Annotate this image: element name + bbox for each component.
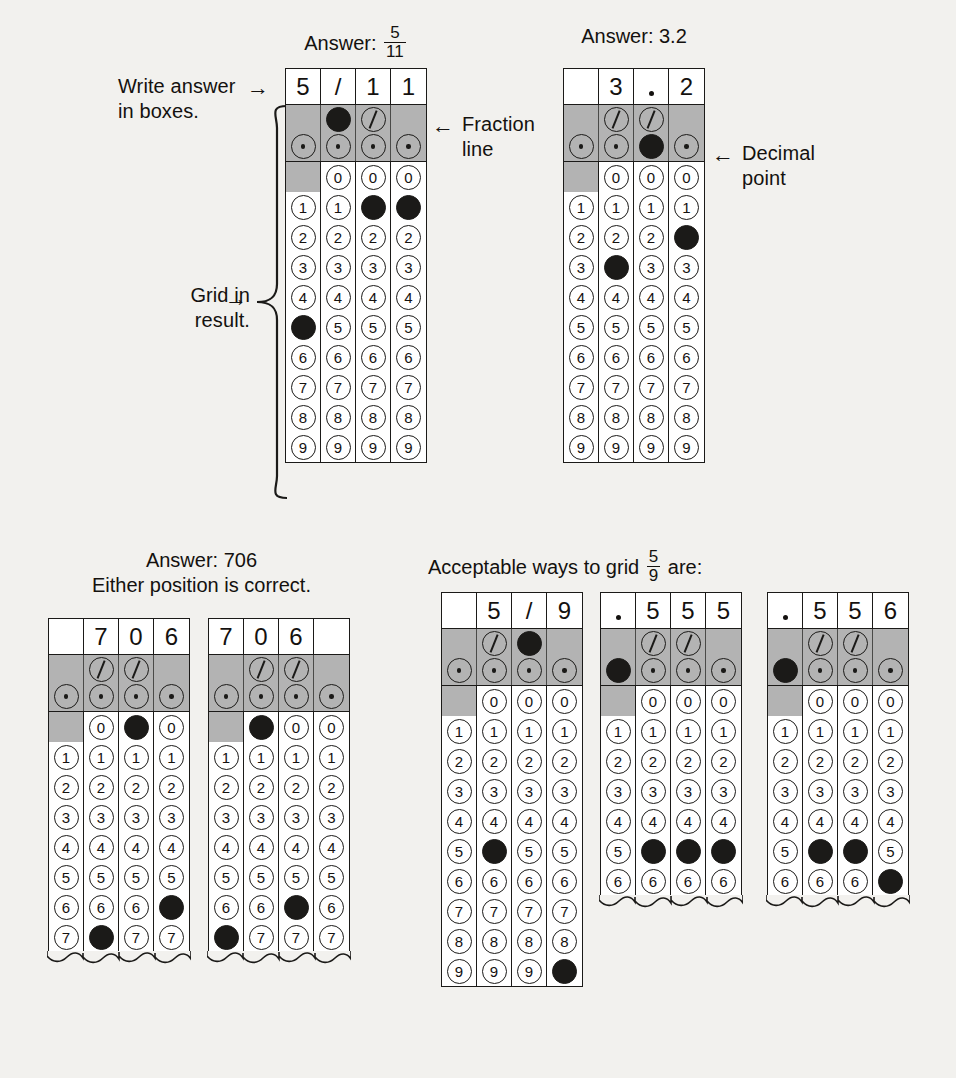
bubble[interactable]: 4 <box>843 809 868 834</box>
bubble[interactable]: 4 <box>89 835 114 860</box>
bubble[interactable]: 7 <box>552 899 577 924</box>
decimal-point-bubble[interactable] <box>326 134 351 159</box>
bubble[interactable]: 1 <box>674 195 699 220</box>
decimal-point-bubble[interactable] <box>808 658 833 683</box>
bubble[interactable]: 2 <box>639 225 664 250</box>
write-in-box[interactable]: 6 <box>873 593 908 628</box>
write-in-box[interactable]: 0 <box>244 619 279 654</box>
write-in-box[interactable]: 2 <box>669 69 704 104</box>
bubble[interactable]: 6 <box>552 869 577 894</box>
bubble[interactable]: 2 <box>159 775 184 800</box>
bubble[interactable]: 0 <box>711 689 736 714</box>
bubble[interactable]: 2 <box>396 225 421 250</box>
bubble[interactable]: 8 <box>447 929 472 954</box>
bubble[interactable]: 9 <box>569 435 594 460</box>
write-in-box[interactable]: 6 <box>279 619 314 654</box>
bubble[interactable]: 6 <box>326 345 351 370</box>
decimal-point-bubble[interactable] <box>291 134 316 159</box>
bubble-filled[interactable]: 1 <box>361 195 386 220</box>
bubble[interactable]: 6 <box>569 345 594 370</box>
bubble[interactable]: 4 <box>447 809 472 834</box>
bubble[interactable]: 3 <box>773 779 798 804</box>
bubble[interactable]: 0 <box>396 165 421 190</box>
bubble[interactable]: 0 <box>159 715 184 740</box>
bubble[interactable]: 1 <box>552 719 577 744</box>
bubble[interactable]: 1 <box>214 745 239 770</box>
bubble[interactable]: 4 <box>249 835 274 860</box>
bubble-filled[interactable]: 6 <box>878 869 903 894</box>
bubble[interactable]: 2 <box>878 749 903 774</box>
bubble[interactable]: 8 <box>552 929 577 954</box>
bubble[interactable]: 3 <box>326 255 351 280</box>
bubble[interactable]: 6 <box>808 869 833 894</box>
bubble[interactable]: 4 <box>214 835 239 860</box>
write-in-box[interactable] <box>634 69 669 104</box>
bubble[interactable]: 3 <box>843 779 868 804</box>
bubble[interactable]: 6 <box>214 895 239 920</box>
bubble[interactable]: 3 <box>284 805 309 830</box>
write-in-box[interactable]: 6 <box>154 619 189 654</box>
bubble[interactable]: 7 <box>54 925 79 950</box>
bubble[interactable]: 3 <box>89 805 114 830</box>
bubble[interactable]: 5 <box>326 315 351 340</box>
bubble-filled[interactable]: 0 <box>249 715 274 740</box>
bubble[interactable]: 2 <box>711 749 736 774</box>
fraction-bar-bubble[interactable] <box>124 657 149 682</box>
bubble[interactable]: 4 <box>319 835 344 860</box>
bubble[interactable]: 7 <box>604 375 629 400</box>
bubble[interactable]: 2 <box>569 225 594 250</box>
bubble[interactable]: 3 <box>447 779 472 804</box>
bubble[interactable]: 6 <box>482 869 507 894</box>
bubble[interactable]: 7 <box>249 925 274 950</box>
bubble[interactable]: 5 <box>773 839 798 864</box>
write-in-box[interactable]: 1 <box>391 69 426 104</box>
decimal-point-bubble[interactable] <box>482 658 507 683</box>
bubble-filled[interactable]: 5 <box>808 839 833 864</box>
bubble[interactable]: 5 <box>214 865 239 890</box>
bubble[interactable]: 3 <box>641 779 666 804</box>
fraction-bar-bubble[interactable] <box>284 657 309 682</box>
bubble[interactable]: 7 <box>291 375 316 400</box>
bubble-filled[interactable]: 5 <box>843 839 868 864</box>
fraction-bar-bubble[interactable] <box>676 631 701 656</box>
bubble[interactable]: 4 <box>878 809 903 834</box>
bubble[interactable]: 5 <box>89 865 114 890</box>
bubble[interactable]: 1 <box>878 719 903 744</box>
bubble-filled[interactable]: 6 <box>284 895 309 920</box>
bubble[interactable]: 1 <box>291 195 316 220</box>
write-in-box[interactable] <box>564 69 599 104</box>
bubble[interactable]: 9 <box>604 435 629 460</box>
bubble[interactable]: 3 <box>606 779 631 804</box>
bubble[interactable]: 8 <box>291 405 316 430</box>
bubble[interactable]: 2 <box>843 749 868 774</box>
bubble[interactable]: 1 <box>604 195 629 220</box>
write-in-box[interactable] <box>49 619 84 654</box>
write-in-box[interactable]: 5 <box>671 593 706 628</box>
bubble[interactable]: 0 <box>482 689 507 714</box>
bubble-filled[interactable]: 5 <box>291 315 316 340</box>
bubble[interactable]: 7 <box>326 375 351 400</box>
decimal-point-bubble[interactable] <box>89 684 114 709</box>
bubble[interactable]: 8 <box>361 405 386 430</box>
bubble[interactable]: 2 <box>447 749 472 774</box>
bubble[interactable]: 0 <box>674 165 699 190</box>
bubble[interactable]: 3 <box>517 779 542 804</box>
bubble[interactable]: 8 <box>604 405 629 430</box>
bubble[interactable]: 3 <box>249 805 274 830</box>
decimal-point-bubble[interactable] <box>54 684 79 709</box>
bubble[interactable]: 5 <box>284 865 309 890</box>
bubble[interactable]: 7 <box>284 925 309 950</box>
bubble[interactable]: 0 <box>552 689 577 714</box>
bubble-filled[interactable]: 2 <box>674 225 699 250</box>
bubble[interactable]: 3 <box>808 779 833 804</box>
write-in-box[interactable]: 7 <box>84 619 119 654</box>
bubble[interactable]: 0 <box>676 689 701 714</box>
decimal-point-bubble-filled[interactable] <box>606 658 631 683</box>
bubble[interactable]: 4 <box>569 285 594 310</box>
bubble[interactable]: 6 <box>291 345 316 370</box>
write-in-box[interactable]: 5 <box>286 69 321 104</box>
bubble[interactable]: 0 <box>361 165 386 190</box>
decimal-point-bubble[interactable] <box>124 684 149 709</box>
bubble[interactable]: 8 <box>326 405 351 430</box>
bubble[interactable]: 1 <box>284 745 309 770</box>
